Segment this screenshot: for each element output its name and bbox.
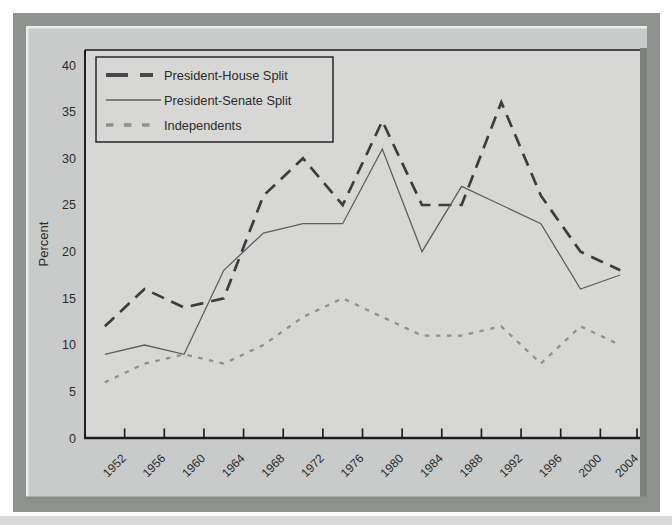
panel-highlight-top bbox=[26, 26, 647, 29]
y-axis-tick-label: 35 bbox=[62, 105, 76, 119]
y-axis-tick-label: 5 bbox=[69, 385, 76, 399]
y-axis-tick-label: 15 bbox=[62, 292, 76, 306]
legend-label: President-House Split bbox=[164, 68, 288, 83]
y-axis-tick-label: 30 bbox=[62, 152, 76, 166]
y-axis-tick-label: 40 bbox=[62, 59, 76, 73]
ticket-splitting-figure: 0510152025303540 19521956196019641968197… bbox=[0, 0, 672, 525]
y-axis-tick-label: 0 bbox=[69, 432, 76, 446]
panel-shadow-right bbox=[640, 48, 647, 499]
bottom-strip bbox=[0, 516, 672, 525]
y-axis-title: Percent bbox=[36, 221, 51, 266]
legend-label: Independents bbox=[164, 118, 242, 133]
y-axis-tick-label: 10 bbox=[62, 338, 76, 352]
legend: President-House Split President-Senate S… bbox=[96, 57, 333, 142]
y-axis-tick-label: 20 bbox=[62, 245, 76, 259]
panel-shadow-bottom bbox=[26, 497, 647, 500]
y-axis-tick-label: 25 bbox=[62, 198, 76, 212]
panel-highlight-left bbox=[26, 26, 29, 499]
legend-label: President-Senate Split bbox=[164, 93, 292, 108]
line-chart: 0510152025303540 19521956196019641968197… bbox=[0, 0, 672, 525]
